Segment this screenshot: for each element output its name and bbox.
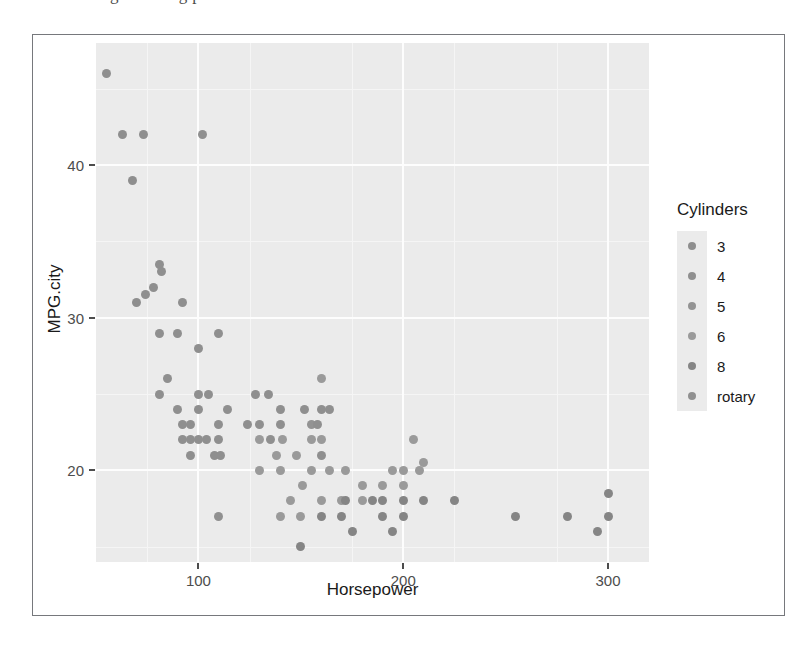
gridline-minor-horizontal: [96, 89, 649, 90]
legend-key-swatch: [677, 291, 707, 321]
y-axis-tick-label: 40: [44, 158, 84, 173]
x-axis-tick-label: 300: [596, 573, 621, 588]
data-point: [409, 435, 418, 444]
gridline-minor-horizontal: [96, 394, 649, 395]
legend-item-4: 4: [677, 261, 755, 291]
data-point: [296, 512, 305, 521]
legend-item-label: 8: [717, 358, 725, 375]
legend-point-icon: [688, 242, 696, 250]
gridline-major-horizontal: [96, 469, 649, 471]
data-point: [368, 496, 377, 505]
y-axis-tick-mark: [89, 317, 95, 319]
data-point: [198, 130, 207, 139]
data-point: [141, 290, 150, 299]
data-point: [139, 130, 148, 139]
data-point: [216, 451, 225, 460]
data-point: [313, 420, 322, 429]
y-axis-tick-label: 20: [44, 463, 84, 478]
data-point: [214, 512, 223, 521]
data-point: [223, 405, 232, 414]
data-point: [243, 420, 252, 429]
data-point: [204, 390, 213, 399]
data-point: [149, 283, 158, 292]
legend-point-icon: [688, 272, 696, 280]
data-point: [214, 420, 223, 429]
data-point: [300, 405, 309, 414]
y-axis-tick-label: 30: [44, 311, 84, 326]
data-point: [341, 496, 350, 505]
data-point: [264, 390, 273, 399]
data-point: [214, 435, 223, 444]
legend-item-8: 8: [677, 351, 755, 381]
data-point: [298, 481, 307, 490]
data-point: [378, 512, 387, 521]
y-axis-title: MPG.city: [45, 219, 65, 379]
data-point: [173, 329, 182, 338]
data-point: [341, 466, 350, 475]
gridline-major-vertical: [607, 43, 609, 562]
legend-point-icon: [688, 392, 696, 400]
legend-item-rotary: rotary: [677, 381, 755, 411]
data-point: [388, 466, 397, 475]
data-point: [194, 390, 203, 399]
legend: Cylinders 34568rotary: [677, 200, 755, 411]
data-point: [604, 512, 613, 521]
gridline-major-horizontal: [96, 164, 649, 166]
data-point: [255, 435, 264, 444]
data-point: [317, 451, 326, 460]
data-point: [419, 458, 428, 467]
gridline-minor-vertical: [557, 43, 558, 562]
data-point: [337, 512, 346, 521]
data-point: [186, 451, 195, 460]
x-axis-tick-mark: [197, 563, 199, 569]
data-point: [278, 435, 287, 444]
data-point: [317, 435, 326, 444]
gridline-minor-vertical: [250, 43, 251, 562]
data-point: [255, 420, 264, 429]
data-point: [399, 466, 408, 475]
data-point: [399, 496, 408, 505]
data-point: [157, 267, 166, 276]
data-point: [307, 466, 316, 475]
legend-title: Cylinders: [677, 200, 755, 220]
data-point: [118, 130, 127, 139]
legend-item-label: 3: [717, 238, 725, 255]
figure-frame: MPG.city Horsepower 203040100200300 Cyli…: [32, 34, 785, 616]
data-point: [358, 481, 367, 490]
x-axis-tick-mark: [607, 563, 609, 569]
legend-key-swatch: [677, 381, 707, 411]
legend-item-label: rotary: [717, 388, 755, 405]
x-axis-title: Horsepower: [96, 580, 649, 600]
data-point: [214, 329, 223, 338]
gridline-major-horizontal: [96, 317, 649, 319]
y-axis-tick-mark: [89, 469, 95, 471]
data-point: [317, 512, 326, 521]
legend-point-icon: [688, 362, 696, 370]
y-axis-tick-mark: [89, 164, 95, 166]
legend-key-swatch: [677, 351, 707, 381]
data-point: [194, 344, 203, 353]
data-point: [202, 435, 211, 444]
legend-key-swatch: [677, 261, 707, 291]
data-point: [276, 466, 285, 475]
data-point: [276, 405, 285, 414]
data-point: [388, 527, 397, 536]
data-point: [325, 405, 334, 414]
data-point: [173, 405, 182, 414]
data-point: [317, 374, 326, 383]
data-point: [266, 435, 275, 444]
gridline-minor-vertical: [454, 43, 455, 562]
data-point: [194, 405, 203, 414]
data-point: [378, 496, 387, 505]
x-axis-tick-label: 100: [186, 573, 211, 588]
legend-item-6: 6: [677, 321, 755, 351]
data-point: [325, 466, 334, 475]
legend-item-label: 5: [717, 298, 725, 315]
gridline-minor-horizontal: [96, 241, 649, 242]
legend-point-icon: [688, 332, 696, 340]
data-point: [255, 466, 264, 475]
data-point: [186, 420, 195, 429]
data-point: [296, 542, 305, 551]
data-point: [286, 496, 295, 505]
data-point: [348, 527, 357, 536]
